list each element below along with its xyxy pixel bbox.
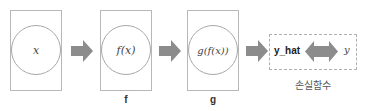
double-arrow-icon [305, 41, 338, 62]
f-box: f(x) [100, 10, 152, 91]
input-circle: x [11, 25, 61, 75]
input-expression: x [33, 44, 39, 57]
g-expression: g(f(x)) [197, 45, 228, 56]
input-box: x [10, 10, 62, 91]
f-caption: f [100, 94, 152, 105]
g-box: g(f(x)) [187, 10, 239, 91]
f-circle: f(x) [101, 25, 151, 75]
right-arrow-icon [159, 40, 181, 62]
prediction-label: y_hat [274, 45, 300, 56]
loss-function-caption: 손실함수 [290, 77, 336, 92]
f-expression: f(x) [117, 44, 136, 57]
right-arrow-icon [246, 40, 268, 62]
g-caption: g [187, 94, 239, 105]
target-label: y [344, 44, 350, 55]
g-circle: g(f(x)) [188, 25, 238, 75]
right-arrow-icon [71, 40, 93, 62]
